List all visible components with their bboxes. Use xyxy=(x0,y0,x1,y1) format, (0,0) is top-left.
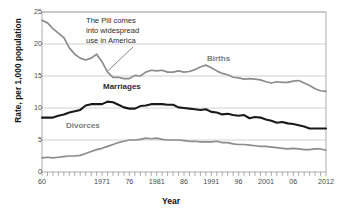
series-label-divorces: Divorces xyxy=(66,121,100,130)
series-label-marriages: Marriages xyxy=(103,82,141,91)
chart-container: Rate, per 1,000 population 0510152025 60… xyxy=(0,0,342,217)
x-axis-tick-label: 2012 xyxy=(306,177,342,186)
x-axis-title: Year xyxy=(0,196,342,206)
x-axis-tick-labels: 601971761981861991962001062012 xyxy=(0,0,342,217)
series-label-births: Births xyxy=(207,54,230,63)
x-axis-tick-label: 60 xyxy=(22,177,62,186)
pill-annotation: The Pill comes into widespread use in Am… xyxy=(86,16,139,47)
